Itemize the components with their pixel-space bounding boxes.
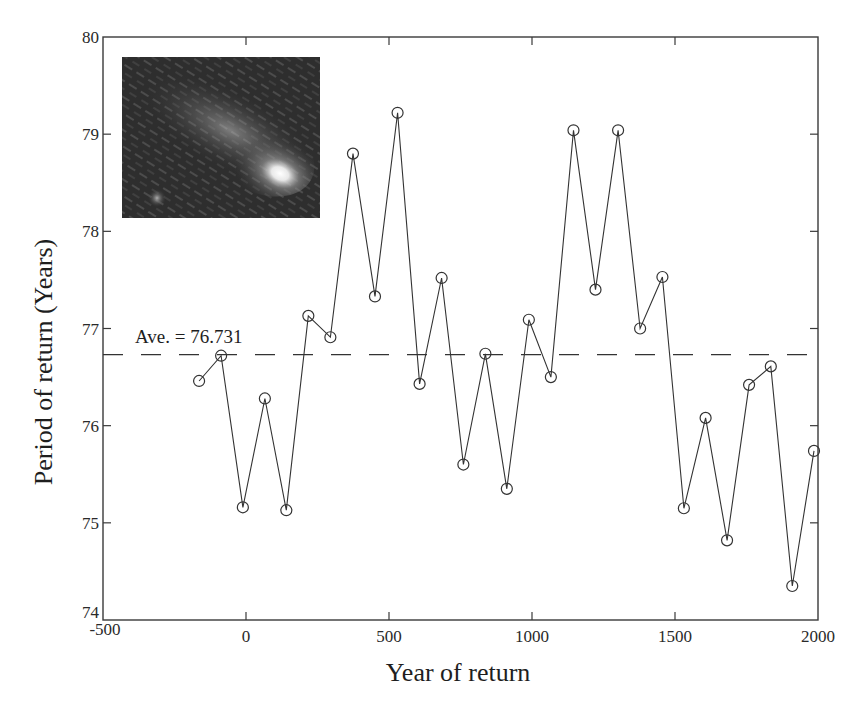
x-tick-label: 1000 [515, 627, 549, 646]
y-tick-label: 74 [82, 603, 100, 622]
x-tick-label: 0 [242, 627, 251, 646]
y-tick-label: 76 [82, 417, 99, 436]
x-tick-label: 500 [376, 627, 402, 646]
y-tick-label: 79 [82, 125, 99, 144]
y-tick-label: 80 [82, 28, 99, 47]
comet-photo-inset [122, 52, 332, 218]
average-label: Ave. = 76.731 [135, 326, 242, 347]
y-tick-label: 77 [82, 320, 100, 339]
x-tick-label: 2000 [801, 627, 835, 646]
y-tick-label: 78 [82, 222, 99, 241]
x-tick-label: -500 [89, 620, 120, 639]
y-tick-label: 75 [82, 514, 99, 533]
x-tick-label: 1500 [658, 627, 692, 646]
x-axis-title: Year of return [386, 658, 531, 687]
chart: -5000500100015002000 74757677787980 Ave.… [0, 0, 864, 713]
y-axis-title: Period of return (Years) [29, 239, 58, 485]
